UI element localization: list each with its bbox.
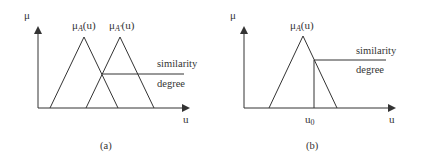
x-axis-label: u bbox=[389, 113, 395, 125]
annotation-similarity: similarity bbox=[356, 45, 397, 56]
curve-label-A: μA(u) bbox=[290, 19, 314, 33]
annotation-degree: degree bbox=[157, 78, 185, 89]
curve-label-A: μA(u) bbox=[72, 19, 96, 33]
u0-label: u0 bbox=[305, 113, 315, 127]
panel-b: μ u μA(u) u0 similarity degree (b) bbox=[230, 9, 397, 152]
caption-a: (a) bbox=[100, 140, 112, 152]
fuzzy-similarity-diagram: μ u μA(u) μA'(u) similarity degree (a) μ… bbox=[0, 0, 424, 167]
y-axis-label: μ bbox=[230, 9, 236, 21]
y-axis-label: μ bbox=[24, 9, 30, 21]
membership-curve-A-prime bbox=[86, 37, 154, 108]
membership-curve-A bbox=[269, 36, 337, 108]
caption-b: (b) bbox=[306, 140, 319, 152]
annotation-degree: degree bbox=[356, 64, 384, 75]
x-axis-label: u bbox=[183, 113, 189, 125]
curve-label-A-prime: μA'(u) bbox=[109, 19, 135, 33]
membership-curve-A bbox=[50, 37, 118, 108]
panel-a: μ u μA(u) μA'(u) similarity degree (a) bbox=[24, 9, 198, 152]
annotation-similarity: similarity bbox=[157, 58, 198, 69]
